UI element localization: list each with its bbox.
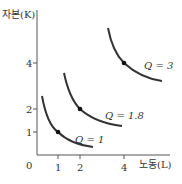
point-q3 [122, 61, 127, 66]
x-tick-label: 1 [55, 162, 61, 173]
y-tick-label: 2 [26, 104, 32, 115]
label-q1: Q = 1 [75, 134, 104, 145]
x-tick-label: 2 [77, 162, 83, 173]
x-axis-label: 노동(L) [139, 159, 172, 170]
label-q18: Q = 1.8 [105, 110, 144, 121]
x-tick-label: 4 [121, 162, 127, 173]
isoquant-chart: 1 2 4 1 2 4 0 자본(K) 노동(L) Q = 1 Q = 1.8 … [0, 0, 182, 184]
point-q18 [78, 107, 83, 112]
y-tick-label: 4 [26, 58, 32, 69]
isoquant-q3 [108, 28, 162, 81]
y-axis-label: 자본(K) [2, 9, 35, 20]
point-q1 [56, 130, 61, 135]
y-tick-label: 1 [26, 127, 32, 138]
label-q3: Q = 3 [144, 60, 173, 71]
origin-label: 0 [26, 160, 32, 171]
